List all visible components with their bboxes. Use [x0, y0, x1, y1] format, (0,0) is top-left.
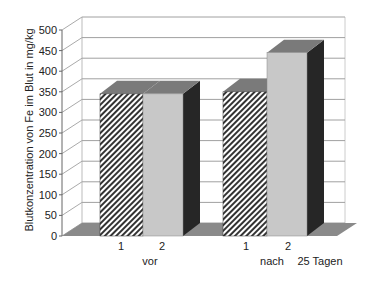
y-tick-label: 500: [39, 24, 57, 36]
x-axis-label: 1: [243, 240, 249, 252]
y-axis-label: Blutkonzentration von Fe im Blut in mg/k…: [23, 29, 35, 232]
y-tick-label: 400: [39, 65, 57, 77]
x-axis-label: 1: [118, 240, 124, 252]
x-axis-label: nach: [260, 255, 284, 267]
x-axis-label: 25 Tagen: [297, 255, 342, 267]
y-tick-label: 300: [39, 106, 57, 118]
y-tick-label: 50: [45, 209, 57, 221]
bar: [143, 94, 183, 236]
x-axis-label: 2: [159, 240, 165, 252]
y-tick-label: 450: [39, 45, 57, 57]
bar: [223, 92, 267, 236]
y-tick-label: 250: [39, 127, 57, 139]
bar-chart: 050100150200250300350400450500 1212vorna…: [0, 0, 382, 281]
bar-group: [100, 81, 200, 236]
y-axis-ticks: 050100150200250300350400450500: [39, 24, 62, 242]
x-axis-label: 2: [285, 240, 291, 252]
bar-group: [223, 40, 324, 236]
y-tick-label: 150: [39, 168, 57, 180]
x-axis-label: vor: [142, 255, 158, 267]
bars: [100, 40, 324, 236]
y-tick-label: 200: [39, 148, 57, 160]
x-axis-labels: 1212vornach25 Tagen: [118, 240, 343, 267]
bar: [100, 94, 143, 236]
y-tick-label: 350: [39, 86, 57, 98]
y-tick-label: 100: [39, 189, 57, 201]
y-tick-label: 0: [51, 230, 57, 242]
bar: [267, 53, 307, 236]
